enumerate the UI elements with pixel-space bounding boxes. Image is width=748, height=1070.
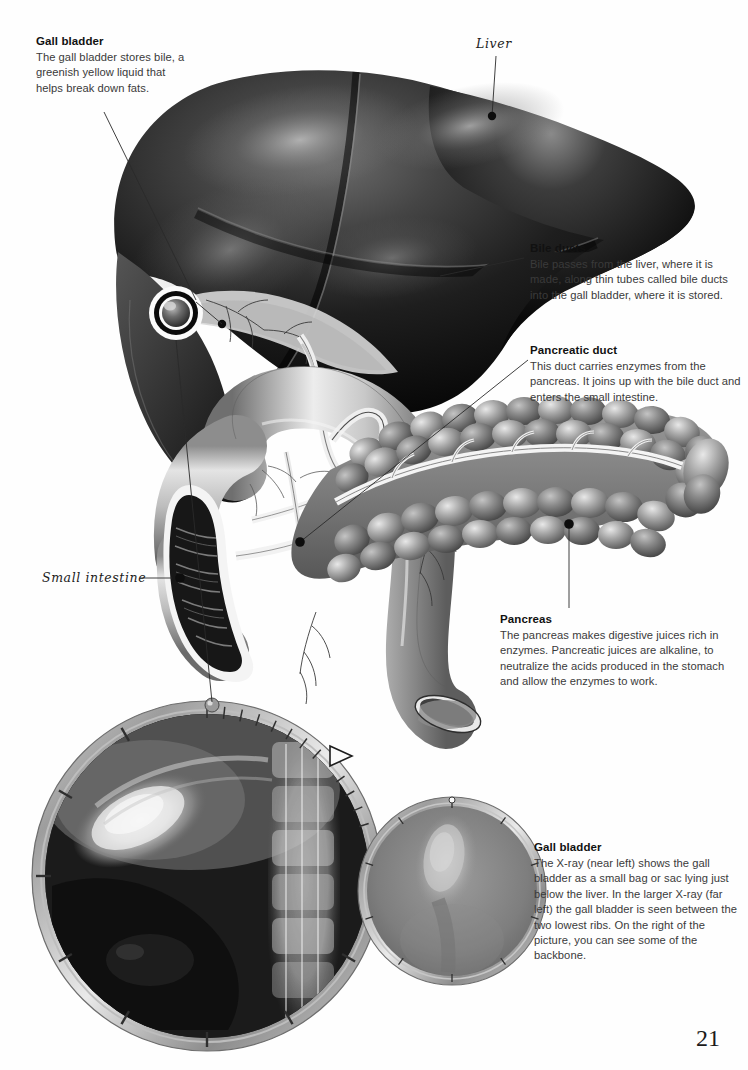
caption-pancreas-body: The pancreas makes digestive juices rich… [500, 628, 738, 690]
caption-gall-bladder-body: The gall bladder stores bile, a greenish… [36, 50, 188, 96]
caption-pancreatic-duct-heading: Pancreatic duct [530, 343, 744, 357]
caption-bile-ducts: Bile ducts Bile passes from the liver, w… [530, 241, 742, 303]
caption-bile-ducts-heading: Bile ducts [530, 241, 742, 255]
caption-pancreatic-duct: Pancreatic duct This duct carries enzyme… [530, 343, 744, 405]
caption-gall-bladder-xray-body: The X-ray (near left) shows the gall bla… [534, 856, 738, 964]
caption-pancreatic-duct-body: This duct carries enzymes from the pancr… [530, 359, 744, 405]
small-intestine-lining [163, 485, 253, 682]
caption-gall-bladder-heading: Gall bladder [36, 34, 188, 48]
caption-gall-bladder-xray: Gall bladder The X-ray (near left) shows… [534, 840, 738, 964]
page-root: Liver Small intestine Gall bladder The g… [0, 0, 748, 1070]
liver-marker-dot [488, 112, 496, 120]
xray-small [358, 797, 546, 985]
small-intestine-marker-dot [175, 573, 185, 583]
label-small-intestine: Small intestine [42, 570, 146, 585]
label-liver: Liver [476, 36, 512, 51]
caption-bile-ducts-body: Bile passes from the liver, where it is … [530, 257, 742, 303]
caption-pancreas: Pancreas The pancreas makes digestive ju… [500, 612, 738, 690]
page-number: 21 [696, 1025, 720, 1052]
gall-bladder-organ [149, 286, 203, 340]
caption-pancreas-heading: Pancreas [500, 612, 738, 626]
caption-gall-bladder-xray-heading: Gall bladder [534, 840, 738, 854]
pancreatic-duct-marker-dot [295, 537, 305, 547]
pancreas-marker-dot [564, 519, 574, 529]
caption-gall-bladder: Gall bladder The gall bladder stores bil… [36, 34, 188, 96]
xray-large [32, 698, 382, 1051]
